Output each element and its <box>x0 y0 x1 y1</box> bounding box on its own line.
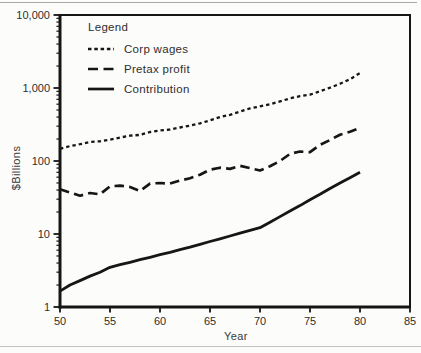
y-axis-tick-label: 1 <box>44 301 50 313</box>
scanned-chart-page: 1101001,00010,0005055606570758085 $Billi… <box>0 0 421 353</box>
x-axis-tick-label: 50 <box>54 315 66 327</box>
x-axis-tick-label: 85 <box>404 315 416 327</box>
legend-dashed-line-icon <box>88 66 114 72</box>
series-pretax-profit-line <box>60 128 360 196</box>
page-bottom-rule <box>0 346 421 347</box>
x-axis-tick-label: 70 <box>254 315 266 327</box>
legend-title: Legend <box>88 21 190 33</box>
y-axis-title: $Billions <box>10 146 22 191</box>
legend-item-pretax-profit: Pretax profit <box>88 59 190 79</box>
x-axis-title: Year <box>224 330 248 342</box>
y-axis-tick-label: 10,000 <box>16 9 50 21</box>
legend-label: Corp wages <box>124 43 188 55</box>
x-axis-tick-label: 65 <box>204 315 216 327</box>
y-axis-tick-label: 100 <box>32 155 50 167</box>
legend-label: Contribution <box>124 83 190 95</box>
legend: Legend Corp wagesPretax profitContributi… <box>88 21 190 99</box>
y-axis-tick-label: 10 <box>38 228 50 240</box>
legend-item-corp-wages: Corp wages <box>88 39 190 59</box>
legend-item-contribution: Contribution <box>88 79 190 99</box>
x-axis-tick-label: 55 <box>104 315 116 327</box>
x-axis-tick-label: 60 <box>154 315 166 327</box>
chart-plot: 1101001,00010,0005055606570758085 <box>0 0 421 353</box>
legend-label: Pretax profit <box>124 63 190 75</box>
y-axis-tick-label: 1,000 <box>22 82 50 94</box>
x-axis-tick-label: 75 <box>304 315 316 327</box>
legend-dotted-line-icon <box>88 46 114 52</box>
x-axis-tick-label: 80 <box>354 315 366 327</box>
legend-solid-line-icon <box>88 86 114 92</box>
legend-rows: Corp wagesPretax profitContribution <box>88 39 190 99</box>
